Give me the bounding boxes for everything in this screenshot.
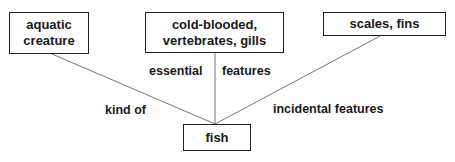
concept-diagram: aquatic creature cold-blooded, vertebrat… (0, 0, 455, 162)
node-fish: fish (183, 124, 251, 151)
node-essential-features: cold-blooded, vertebrates, gills (145, 12, 284, 53)
edge-label-features: features (222, 64, 271, 78)
node-aquatic-line2: creature (23, 33, 74, 49)
node-aquatic-creature: aquatic creature (9, 12, 89, 54)
node-incidental-label: scales, fins (349, 16, 419, 32)
node-essential-line1: cold-blooded, (172, 17, 257, 33)
edge-label-kind-of: kind of (105, 103, 146, 117)
node-aquatic-line1: aquatic (26, 17, 72, 33)
edge-label-incidental-features: incidental features (273, 102, 383, 116)
node-incidental-features: scales, fins (323, 12, 446, 36)
node-fish-label: fish (205, 130, 228, 146)
node-essential-line2: vertebrates, gills (163, 33, 266, 49)
edge-label-essential: essential (149, 64, 203, 78)
